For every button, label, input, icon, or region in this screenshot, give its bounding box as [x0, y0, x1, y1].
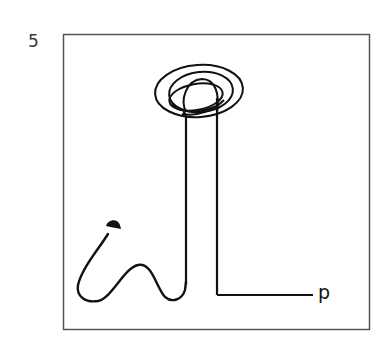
loop-cluster: [153, 62, 244, 120]
start-dot-icon: [106, 220, 121, 229]
ascending-line: [183, 112, 186, 285]
end-label: p: [318, 281, 330, 303]
wavy-path: [78, 234, 186, 301]
